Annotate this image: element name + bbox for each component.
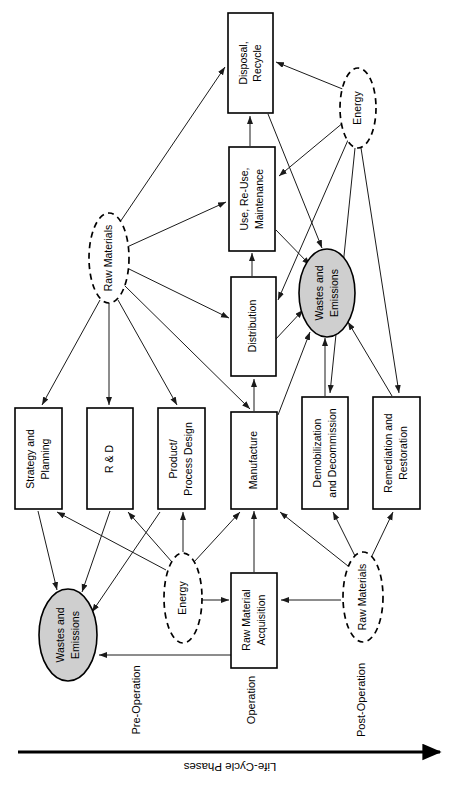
phase-label-layer: Pre-Operation Operation Post-Operation xyxy=(130,663,367,737)
node-wastes-and-emissions-lower[interactable]: Wastes and Emissions xyxy=(39,589,97,681)
node-disposal-recycle-line2: Recycle xyxy=(251,44,263,82)
node-wastes-upper-line2: Emissions xyxy=(328,269,340,317)
edge-rawmaterials-lower-to-manufacture xyxy=(280,512,348,566)
node-wastes-lower-line2: Emissions xyxy=(69,611,81,659)
node-distribution[interactable]: Distribution xyxy=(231,277,276,376)
node-layer: Disposal, Recycle Use, Re-Use, Maintenan… xyxy=(15,13,420,681)
node-raw-material-acquisition[interactable]: Raw Material Acquisition xyxy=(231,573,277,668)
edge-distribution-to-wastes-upper xyxy=(275,310,303,340)
node-r-and-d-label: R & D xyxy=(103,445,115,473)
node-disposal-recycle-line1: Disposal, xyxy=(237,41,249,84)
edge-rawmaterials-to-strategy xyxy=(42,300,100,405)
diagram-canvas: Disposal, Recycle Use, Re-Use, Maintenan… xyxy=(0,0,462,785)
node-raw-materials-upper[interactable]: Raw Materials xyxy=(89,213,129,303)
edge-rawmaterials-to-productdesign xyxy=(118,300,177,405)
node-manufacture-label: Manufacture xyxy=(247,431,259,490)
axis-group: Life-Cycle Phases xyxy=(18,752,440,773)
edge-usereuse-to-wastes-upper xyxy=(276,230,310,265)
node-strategy-line1: Strategy and xyxy=(24,429,36,489)
edge-rawmaterials-lower-to-demobilization xyxy=(333,512,355,556)
node-demobilization-line2: and Decommission xyxy=(326,408,338,497)
node-use-reuse-maintenance-line2: Maintenance xyxy=(253,169,265,229)
edge-energy-upper-to-usereuse xyxy=(279,122,344,176)
node-product-design-line2: Process Design xyxy=(182,422,194,496)
edge-disposal-to-wastes-upper xyxy=(268,114,322,248)
node-energy-lower-label: Energy xyxy=(176,581,188,615)
node-wastes-and-emissions-upper[interactable]: Wastes and Emissions xyxy=(299,249,355,337)
node-product-design-line1: Product/ xyxy=(167,439,179,478)
node-r-and-d[interactable]: R & D xyxy=(87,408,133,509)
node-demobilization-and-decommission[interactable]: Demobilization and Decommission xyxy=(302,397,348,509)
node-wastes-upper-line1: Wastes and xyxy=(313,265,325,320)
phase-label-operation: Operation xyxy=(245,676,257,724)
node-use-reuse-maintenance-line1: Use, Re-Use, xyxy=(238,167,250,230)
edge-energy-upper-to-disposal xyxy=(276,62,345,90)
node-raw-materials-lower-label: Raw Materials xyxy=(356,564,368,631)
edge-rawmaterials-to-disposal xyxy=(120,67,225,222)
node-remediation-and-restoration[interactable]: Remediation and Restoration xyxy=(373,397,420,509)
phase-label-pre-operation: Pre-Operation xyxy=(130,665,142,734)
node-wastes-lower-line1: Wastes and xyxy=(54,607,66,662)
edge-productdesign-to-wastes-lower xyxy=(92,512,160,612)
edge-strategy-to-wastes-lower xyxy=(38,511,57,590)
node-remediation-line1: Remediation and xyxy=(382,413,394,493)
node-product-process-design[interactable]: Product/ Process Design xyxy=(158,408,205,509)
edge-rd-to-wastes-lower xyxy=(82,511,110,592)
edge-remediation-to-wastes-upper xyxy=(348,322,392,396)
node-raw-materials-lower[interactable]: Raw Materials xyxy=(343,552,383,642)
edge-rawmaterials-to-usereuse xyxy=(127,202,226,247)
edge-energy-lower-to-rd xyxy=(128,512,172,562)
node-energy-upper[interactable]: Energy xyxy=(340,68,376,148)
node-energy-upper-label: Energy xyxy=(351,91,363,125)
node-raw-material-acq-line2: Acquisition xyxy=(255,594,267,645)
axis-label-life-cycle-phases: Life-Cycle Phases xyxy=(183,761,276,773)
node-remediation-line2: Restoration xyxy=(397,426,409,480)
node-use-reuse-maintenance[interactable]: Use, Re-Use, Maintenance xyxy=(229,147,275,251)
node-raw-materials-upper-label: Raw Materials xyxy=(102,225,114,292)
node-manufacture[interactable]: Manufacture xyxy=(231,412,277,509)
node-demobilization-line1: Demobilization xyxy=(311,418,323,487)
edge-energy-lower-to-strategy xyxy=(57,512,166,570)
life-cycle-phases-diagram: Disposal, Recycle Use, Re-Use, Maintenan… xyxy=(0,0,462,785)
node-strategy-and-planning[interactable]: Strategy and Planning xyxy=(15,408,62,509)
edge-energy-lower-to-manufacture xyxy=(194,512,240,562)
node-raw-material-acq-line1: Raw Material xyxy=(240,589,252,650)
edge-rawmaterials-lower-to-remediation xyxy=(371,512,393,558)
node-distribution-label: Distribution xyxy=(246,300,258,353)
node-disposal-recycle[interactable]: Disposal, Recycle xyxy=(228,13,273,113)
phase-label-post-operation: Post-Operation xyxy=(355,663,367,737)
edge-rawmaterials-to-distribution xyxy=(127,268,229,318)
edge-layer xyxy=(38,62,399,655)
edge-energy-upper-to-remediation xyxy=(361,148,399,393)
node-strategy-line2: Planning xyxy=(39,438,51,479)
node-energy-lower[interactable]: Energy xyxy=(164,553,202,643)
